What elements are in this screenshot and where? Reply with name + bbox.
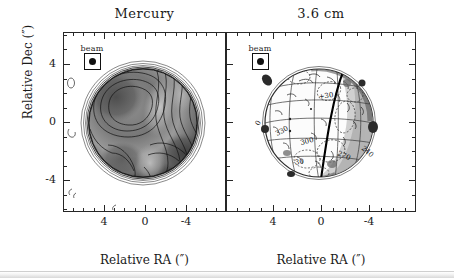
y-axis-title: Relative Dec (″) bbox=[21, 0, 35, 147]
tick-y-major-0 bbox=[63, 122, 70, 123]
tick-y-inner-major bbox=[226, 122, 233, 123]
tick-x-left-minor bbox=[83, 208, 84, 212]
tick-y-inner-minor bbox=[226, 79, 230, 80]
tick-y-far-minor bbox=[412, 151, 416, 152]
tick-y-inner-minor bbox=[226, 137, 230, 138]
page-bottom-edge bbox=[0, 272, 454, 278]
tick-y-far-minor bbox=[412, 137, 416, 138]
tick-y-far-major bbox=[409, 64, 416, 65]
xtick-label-left-0: 0 bbox=[131, 215, 159, 228]
tick-xtop-left-minor bbox=[83, 32, 84, 36]
tick-xtop-right-minor bbox=[345, 32, 346, 36]
tick-xtop-left-minor bbox=[176, 32, 177, 36]
tick-xtop-right-minor bbox=[285, 32, 286, 36]
tick-y-minor bbox=[63, 137, 67, 138]
beam-label: beam bbox=[240, 44, 280, 53]
tick-y-inner-minor bbox=[226, 108, 230, 109]
tick-x-left-major-4 bbox=[104, 205, 105, 212]
tick-y-inner-minor bbox=[226, 93, 230, 94]
tick-y-far-minor bbox=[412, 93, 416, 94]
beam-ellipse-icon bbox=[89, 58, 96, 65]
x-axis-title-left: Relative RA (″) bbox=[63, 253, 226, 267]
tick-y-far-minor bbox=[412, 195, 416, 196]
figure-root: Mercury 3.6 cm bbox=[0, 0, 454, 278]
tick-x-left-minor bbox=[73, 208, 74, 212]
tick-xtop-right-minor bbox=[333, 32, 334, 36]
tick-y-major-m4 bbox=[63, 180, 70, 181]
panel-title-wavelength: 3.6 cm bbox=[226, 6, 416, 21]
tick-xtop-left-minor bbox=[216, 32, 217, 36]
graticule-label-lon-240: 240 bbox=[360, 144, 375, 159]
graticule-label-lon-0: 0 bbox=[254, 119, 263, 127]
tick-xtop-left-minor bbox=[114, 32, 115, 36]
tick-xtop-left-major bbox=[186, 32, 187, 39]
tick-x-right-minor bbox=[381, 208, 382, 212]
tick-x-right-minor bbox=[249, 208, 250, 212]
tick-y-far-major bbox=[409, 180, 416, 181]
tick-x-right-minor bbox=[357, 208, 358, 212]
beam-ellipse-icon bbox=[257, 58, 264, 65]
beam-indicator-left: beam bbox=[72, 44, 112, 70]
tick-x-left-minor bbox=[206, 208, 207, 212]
tick-xtop-right-minor bbox=[309, 32, 310, 36]
tick-x-left-minor bbox=[155, 208, 156, 212]
tick-y-minor bbox=[63, 195, 67, 196]
tick-xtop-right-minor bbox=[261, 32, 262, 36]
tick-y-inner-minor bbox=[226, 49, 230, 50]
tick-y-minor bbox=[63, 209, 67, 210]
tick-x-right-minor bbox=[261, 208, 262, 212]
tick-y-far-minor bbox=[412, 166, 416, 167]
beam-label: beam bbox=[72, 44, 112, 53]
tick-y-inner-minor bbox=[226, 195, 230, 196]
tick-xtop-right-minor bbox=[297, 32, 298, 36]
tick-xtop-left-minor bbox=[73, 32, 74, 36]
tick-x-right-minor bbox=[405, 208, 406, 212]
tick-x-right-minor bbox=[237, 208, 238, 212]
tick-x-left-minor bbox=[135, 208, 136, 212]
tick-x-left-minor bbox=[94, 208, 95, 212]
xtick-label-right-0: 0 bbox=[307, 215, 335, 228]
tick-xtop-right-minor bbox=[357, 32, 358, 36]
beam-indicator-right: beam bbox=[240, 44, 280, 70]
tick-x-right-major-m4 bbox=[369, 205, 370, 212]
xtick-label-left-4: 4 bbox=[90, 215, 118, 228]
tick-y-major-4 bbox=[63, 64, 70, 65]
panel-title-mercury: Mercury bbox=[63, 6, 226, 21]
graticule-label-lat-minus30: -30 bbox=[292, 157, 304, 166]
tick-y-far-major bbox=[409, 122, 416, 123]
tick-y-minor bbox=[63, 151, 67, 152]
tick-x-right-minor bbox=[333, 208, 334, 212]
beam-box bbox=[84, 53, 101, 70]
tick-xtop-left-minor bbox=[206, 32, 207, 36]
tick-y-inner-minor bbox=[226, 166, 230, 167]
tick-y-minor bbox=[63, 49, 67, 50]
tick-xtop-right-major bbox=[273, 32, 274, 39]
tick-y-minor bbox=[63, 108, 67, 109]
tick-xtop-right-minor bbox=[393, 32, 394, 36]
x-axis-title-right: Relative RA (″) bbox=[226, 253, 416, 267]
tick-xtop-left-minor bbox=[165, 32, 166, 36]
tick-x-left-minor bbox=[196, 208, 197, 212]
tick-x-right-minor bbox=[285, 208, 286, 212]
tick-y-inner-minor bbox=[226, 151, 230, 152]
tick-xtop-right-minor bbox=[249, 32, 250, 36]
tick-y-minor bbox=[63, 79, 67, 80]
tick-x-left-major-m4 bbox=[186, 205, 187, 212]
tick-x-left-minor bbox=[176, 208, 177, 212]
tick-xtop-left-major bbox=[104, 32, 105, 39]
tick-xtop-left-major bbox=[145, 32, 146, 39]
ytick-label-minus4: -4 bbox=[28, 173, 56, 186]
tick-xtop-left-minor bbox=[135, 32, 136, 36]
xtick-label-right-4: 4 bbox=[259, 215, 287, 228]
tick-xtop-left-minor bbox=[124, 32, 125, 36]
tick-x-right-major-4 bbox=[273, 205, 274, 212]
tick-x-left-minor bbox=[114, 208, 115, 212]
tick-x-left-minor bbox=[124, 208, 125, 212]
tick-xtop-right-minor bbox=[237, 32, 238, 36]
tick-x-left-major-0 bbox=[145, 205, 146, 212]
tick-xtop-right-major bbox=[369, 32, 370, 39]
tick-x-left-minor bbox=[216, 208, 217, 212]
tick-xtop-right-minor bbox=[405, 32, 406, 36]
tick-xtop-left-minor bbox=[155, 32, 156, 36]
beam-box bbox=[252, 53, 269, 70]
